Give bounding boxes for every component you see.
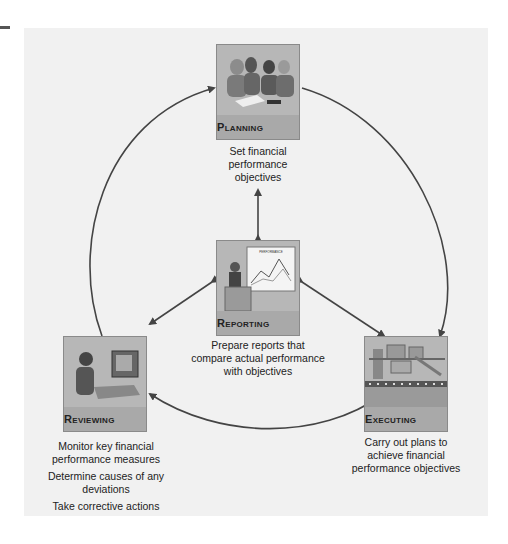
presenter-chart-icon: PERFORMANCE — [217, 241, 299, 311]
arrow-reporting-reviewing — [150, 282, 212, 324]
factory-machinery-icon — [365, 337, 447, 407]
executing-caption: Carry out plans to achieve financial per… — [346, 436, 466, 479]
reviewing-caption: Monitor key financial performance measur… — [46, 440, 166, 517]
arrow-reviewing-to-planning — [90, 88, 214, 336]
arrow-executing-to-reviewing — [150, 394, 382, 429]
planning-caption: Set financial performance objectives — [208, 145, 308, 188]
reporting-title: Reporting — [217, 317, 299, 329]
reviewing-title: Reviewing — [64, 413, 146, 425]
reviewing-caption-line: Take corrective actions — [46, 500, 166, 513]
reviewing-caption-line: Determine causes of any deviations — [46, 470, 166, 496]
executing-box: Executing — [364, 336, 448, 432]
planning-title: Planning — [217, 121, 299, 133]
arrow-reporting-executing — [302, 282, 384, 336]
reporting-caption: Prepare reports that compare actual perf… — [190, 339, 326, 382]
planning-caption-line: Set financial performance objectives — [208, 145, 308, 184]
executing-caption-line: Carry out plans to achieve financial per… — [346, 436, 466, 475]
executing-title: Executing — [365, 413, 447, 425]
reviewing-caption-line: Monitor key financial performance measur… — [46, 440, 166, 466]
person-at-computer-icon — [64, 337, 146, 407]
arrow-planning-to-executing — [302, 88, 448, 336]
reviewing-box: Reviewing — [63, 336, 147, 432]
planning-box: Planning — [216, 44, 300, 140]
reporting-box: PERFORMANCE Reporting — [216, 240, 300, 336]
meeting-people-icon — [217, 45, 299, 115]
chart-label: PERFORMANCE — [259, 250, 282, 254]
reporting-caption-line: Prepare reports that compare actual perf… — [190, 339, 326, 378]
